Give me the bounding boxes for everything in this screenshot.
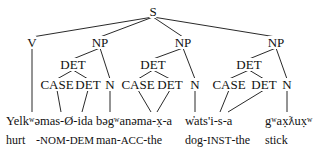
node-s: S [149, 5, 156, 18]
node-v: V [27, 36, 36, 49]
word: bəgʷanəma-x̣-a [96, 115, 172, 128]
word: w̓ats'i-s-a [185, 115, 232, 128]
leaf-edge [157, 90, 170, 112]
node-det3b: DET [251, 78, 276, 91]
node-det2: DET [140, 58, 165, 71]
tree-edge [100, 17, 153, 37]
gloss: hurt [6, 134, 25, 146]
node-det3: DET [236, 58, 261, 71]
node-det2b: DET [157, 78, 182, 91]
node-np2: NP [175, 36, 192, 49]
gloss: man-ACC-the [96, 134, 162, 146]
node-np3: NP [268, 36, 285, 49]
tree-edge [32, 17, 153, 37]
word: Yelkʷəmas-Ø-ida [6, 115, 93, 128]
gloss: dog-INST-the [185, 134, 250, 146]
gloss: -NOM-DEM [36, 134, 94, 146]
leaf-edge [220, 90, 229, 112]
leaf-edge [138, 90, 151, 112]
node-case2: CASE [121, 78, 154, 91]
word: gʷax̣ƛux̣ʷ [265, 115, 312, 128]
node-np1: NP [92, 36, 109, 49]
tree-edge [276, 48, 287, 79]
node-n1: N [105, 78, 114, 91]
tree-edge [100, 48, 110, 79]
node-n3: N [282, 78, 291, 91]
tree-edge [153, 17, 276, 37]
node-case3: CASE [212, 78, 245, 91]
node-det1b: DET [75, 78, 100, 91]
leaf-edge [228, 90, 264, 112]
gloss: stick [265, 134, 288, 146]
node-n2: N [190, 78, 199, 91]
leaf-edge [57, 90, 61, 112]
node-det1: DET [60, 58, 85, 71]
syntax-tree-diagram: SVNPNPNPDETDETDETCASEDETNCASEDETNCASEDET… [0, 0, 313, 154]
tree-edge [153, 17, 183, 37]
tree-edge [183, 48, 195, 79]
leaf-edge [82, 90, 88, 112]
node-case1: CASE [40, 78, 73, 91]
